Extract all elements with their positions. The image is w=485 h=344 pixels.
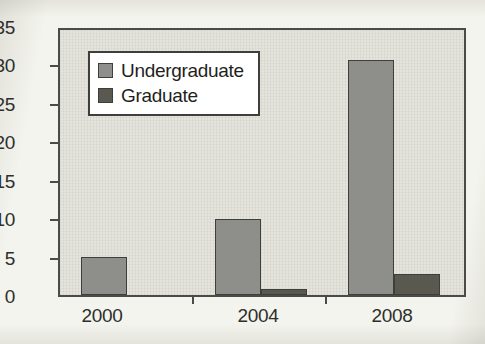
y-tick-label-30: 30 — [0, 55, 15, 77]
bar-chart: 0 5 10 15 20 25 30 35 Un — [0, 0, 485, 344]
chart-legend: Undergraduate Graduate — [88, 51, 260, 116]
x-tick-label-2004: 2004 — [213, 305, 303, 327]
legend-entry-graduate: Graduate — [98, 83, 244, 108]
chart-screenshot: 0 5 10 15 20 25 30 35 Un — [0, 0, 485, 344]
y-tick-label-35: 35 — [0, 17, 15, 39]
x-tick-mark-1 — [192, 297, 194, 304]
y-tick-label-10: 10 — [0, 209, 15, 231]
legend-swatch-graduate-icon — [98, 88, 113, 103]
legend-swatch-undergraduate-icon — [98, 63, 113, 78]
bar-undergraduate-2004 — [215, 219, 261, 295]
plot-area: Undergraduate Graduate — [58, 28, 466, 297]
x-tick-label-2000: 2000 — [57, 305, 147, 327]
y-tick-label-0: 0 — [0, 286, 15, 308]
bar-graduate-2004 — [261, 289, 307, 295]
legend-label-graduate: Graduate — [121, 85, 198, 107]
bar-graduate-2008 — [394, 274, 440, 295]
y-tick-label-5: 5 — [0, 248, 15, 270]
bar-undergraduate-2008 — [348, 60, 394, 295]
legend-label-undergraduate: Undergraduate — [121, 60, 244, 82]
legend-entry-undergraduate: Undergraduate — [98, 58, 244, 83]
bar-undergraduate-2000 — [81, 257, 127, 295]
y-tick-label-15: 15 — [0, 171, 15, 193]
x-tick-mark-2 — [325, 297, 327, 304]
x-tick-label-2008: 2008 — [347, 305, 437, 327]
y-tick-label-25: 25 — [0, 94, 15, 116]
y-tick-label-20: 20 — [0, 132, 15, 154]
